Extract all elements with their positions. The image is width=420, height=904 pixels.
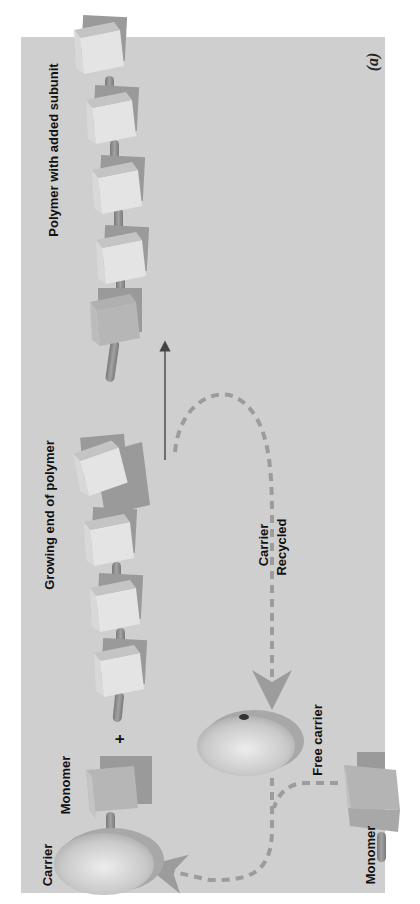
label-carrier: Carrier [40,844,55,887]
plus-sign: + [111,734,128,743]
carrier-binding-site-icon [239,714,249,720]
label-monomer-free: Monomer [363,826,378,885]
label-growing-end-of-polymer: Growing end of polymer [42,440,57,590]
polymerization-diagram: (a) Polymer with added subunit Growing e… [0,0,420,904]
label-monomer-top: Monomer [58,756,73,815]
label-free-carrier: Free carrier [310,704,325,776]
label-polymer-with-added-subunit: Polymer with added subunit [46,63,61,237]
label-carrier-recycled-line2: Recycled [274,518,289,575]
panel-letter: (a) [364,53,382,72]
label-carrier-recycled-line1: Carrier [256,524,271,567]
